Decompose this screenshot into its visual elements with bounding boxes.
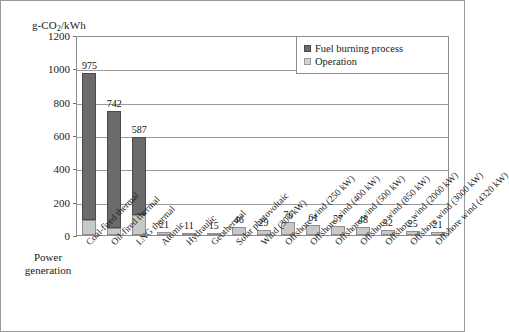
x-axis-title: Power generation [19,251,77,277]
x-axis-title-line1: Power [19,251,77,264]
x-axis-title-line2: generation [19,264,77,277]
x-axis-category-labels: Coal-fired thermalOil-fired thermalLNG t… [1,1,466,332]
